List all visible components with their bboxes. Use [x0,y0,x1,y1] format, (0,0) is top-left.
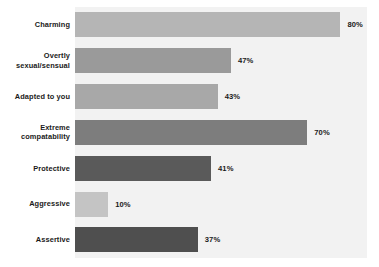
bar-track: 80% [75,7,367,43]
bar-row: Extreme compatability70% [0,115,379,151]
bar-track: 47% [75,43,367,79]
bar-track: 70% [75,115,367,151]
bar-track: 37% [75,222,367,258]
bar-track: 41% [75,150,367,186]
bar-row: Charming80% [0,7,379,43]
bar[interactable] [75,48,231,73]
bar-value-label: 70% [314,128,330,137]
bar-value-label: 41% [218,164,234,173]
bar[interactable] [75,192,108,217]
bar-category-label: Adapted to you [0,92,70,101]
bar[interactable] [75,12,340,37]
bar-category-label: Protective [0,164,70,173]
bar-category-label: Overtly sexual/sensual [0,51,70,70]
bar-category-label: Aggressive [0,199,70,208]
bar-value-label: 10% [115,200,131,209]
bar-row: Adapted to you43% [0,79,379,115]
bar[interactable] [75,120,307,145]
bar[interactable] [75,156,211,181]
bar-category-label: Assertive [0,235,70,244]
bar-row: Overtly sexual/sensual47% [0,43,379,79]
bar-track: 43% [75,79,367,115]
bar-row: Assertive37% [0,222,379,258]
bar-value-label: 43% [225,92,241,101]
bar-track: 10% [75,186,367,222]
bar-category-label: Charming [0,20,70,29]
bar-row: Aggressive10% [0,186,379,222]
bar-row: Protective41% [0,150,379,186]
bar-value-label: 47% [238,56,254,65]
bar[interactable] [75,84,218,109]
bar-rows: Charming80%Overtly sexual/sensual47%Adap… [0,7,379,258]
bar-value-label: 80% [347,20,363,29]
bar-category-label: Extreme compatability [0,123,70,142]
bar-value-label: 37% [205,235,221,244]
bar[interactable] [75,227,198,252]
bar-chart: Charming80%Overtly sexual/sensual47%Adap… [0,0,379,267]
